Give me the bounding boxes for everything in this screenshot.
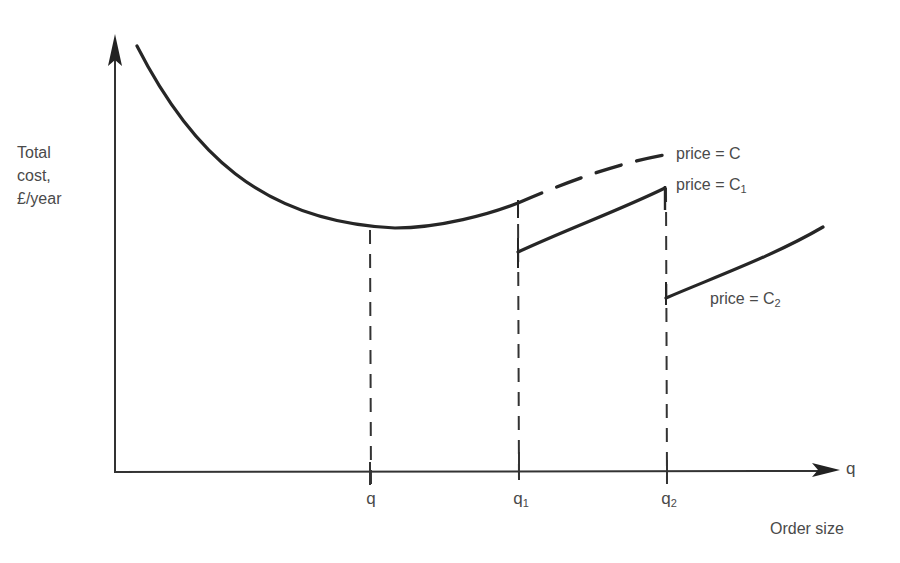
tick-label-q2: q2 — [661, 489, 677, 509]
x-axis-label: Order size — [770, 518, 844, 540]
tick-label-q: q — [366, 489, 375, 509]
ref-line-q2 — [666, 188, 667, 484]
annotation-price-c1-text: price = C — [676, 176, 740, 193]
curve-price-c-dashed — [518, 155, 664, 203]
annotation-price-c1: price = C1 — [676, 174, 747, 197]
curve-price-c1 — [518, 188, 665, 252]
ref-line-q — [370, 230, 371, 486]
tick-label-q1: q1 — [513, 489, 529, 509]
annotation-price-c1-sub: 1 — [740, 183, 746, 195]
chart-canvas — [0, 0, 900, 563]
curve-price-c — [137, 46, 518, 228]
annotation-price-c2-text: price = C — [710, 290, 774, 307]
annotation-price-c2: price = C2 — [710, 288, 781, 311]
x-axis-symbol: q — [846, 458, 855, 481]
y-axis-label-line3: £/year — [17, 187, 61, 210]
y-axis-label: Total cost, £/year — [17, 141, 61, 210]
tick-label-q-text: q — [366, 489, 375, 508]
annotation-price-c2-sub: 2 — [774, 297, 780, 309]
y-axis-label-line1: Total — [17, 141, 61, 164]
annotation-price-c-text: price = C — [676, 145, 740, 162]
x-axis-arrow-icon — [812, 463, 840, 477]
x-axis — [114, 471, 822, 472]
tick-label-q1-sub: 1 — [523, 497, 529, 509]
tick-label-q2-sub: 2 — [671, 497, 677, 509]
y-axis-label-line2: cost, — [17, 164, 61, 187]
annotation-price-c: price = C — [676, 143, 740, 165]
